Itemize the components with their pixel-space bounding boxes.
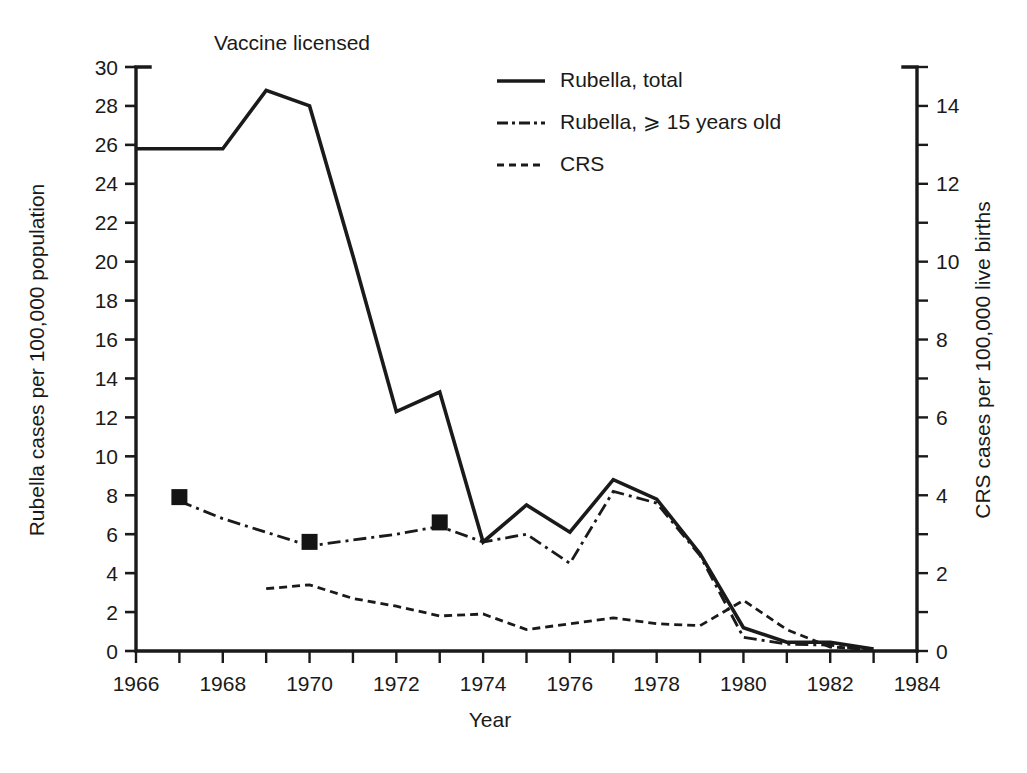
right-spine (903, 67, 917, 651)
data-point-markers-group (171, 489, 447, 550)
x-axis-tick-label: 1970 (286, 672, 333, 695)
y-axis-right-tick-label: 4 (936, 484, 948, 507)
y-axis-right-tick-label: 2 (936, 562, 948, 585)
y-axis-left-tick-label: 24 (95, 172, 119, 195)
x-axis-tick-label: 1984 (894, 672, 941, 695)
rubella-crs-incidence-chart: 0246810121416182022242628300246810121419… (0, 0, 1027, 773)
y-axis-left-tick-label: 2 (106, 601, 118, 624)
x-axis-tick-label: 1982 (807, 672, 854, 695)
x-axis-tick-label: 1972 (373, 672, 420, 695)
y-axis-left-tick-label: 12 (95, 406, 118, 429)
y-axis-left-tick-label: 26 (95, 133, 118, 156)
x-axis-tick-label: 1978 (633, 672, 680, 695)
y-axis-left-tick-label: 18 (95, 289, 118, 312)
legend-item-crs: CRS (497, 152, 604, 175)
y-axis-left-tick-label: 6 (106, 523, 118, 546)
y-axis-left-title: Rubella cases per 100,000 population (25, 184, 48, 537)
y-axis-left-tick-label: 28 (95, 94, 118, 117)
vaccine-licensed-annotation: Vaccine licensed (214, 31, 370, 54)
y-axis-left-tick-label: 0 (106, 640, 118, 663)
tick-labels-group: 0246810121416182022242628300246810121419… (95, 56, 960, 696)
axes-group (125, 67, 928, 663)
x-axis-tick-label: 1966 (113, 672, 160, 695)
y-axis-right-tick-label: 12 (936, 172, 959, 195)
y-axis-right-tick-label: 0 (936, 640, 948, 663)
series-line-rubella-15-years-old (179, 491, 873, 651)
y-axis-left-tick-label: 14 (95, 367, 119, 390)
legend: Rubella, totalRubella, ⩾ 15 years oldCRS (497, 68, 781, 175)
y-axis-left-tick-label: 16 (95, 328, 118, 351)
x-axis-tick-label: 1974 (460, 672, 507, 695)
legend-label: Rubella, ⩾ 15 years old (560, 110, 781, 133)
legend-label: CRS (560, 152, 604, 175)
y-axis-right-tick-label: 8 (936, 328, 948, 351)
x-axis-tick-label: 1976 (547, 672, 594, 695)
chart-canvas: 0246810121416182022242628300246810121419… (0, 0, 1027, 773)
x-axis-title: Year (469, 708, 511, 731)
y-axis-left-tick-label: 30 (95, 56, 118, 79)
y-axis-left-tick-label: 20 (95, 250, 118, 273)
y-axis-left-tick-label: 8 (106, 484, 118, 507)
data-point-marker-square (171, 489, 187, 505)
series-line-rubella-total (136, 90, 874, 649)
y-axis-left-tick-label: 10 (95, 445, 118, 468)
y-axis-right-tick-label: 6 (936, 406, 948, 429)
y-axis-left-tick-label: 4 (106, 562, 118, 585)
data-point-marker-square (302, 534, 318, 550)
y-axis-right-tick-label: 14 (936, 94, 960, 117)
legend-label: Rubella, total (560, 68, 683, 91)
data-series-group (136, 90, 874, 651)
y-axis-right-tick-label: 10 (936, 250, 959, 273)
data-point-marker-square (432, 514, 448, 530)
legend-item-rubella-15-years-old: Rubella, ⩾ 15 years old (497, 110, 781, 133)
legend-item-rubella-total: Rubella, total (497, 68, 683, 91)
y-axis-left-tick-label: 22 (95, 211, 118, 234)
left-and-bottom-spine (136, 67, 917, 651)
x-axis-tick-label: 1968 (199, 672, 246, 695)
x-axis-tick-label: 1980 (720, 672, 767, 695)
y-axis-right-title: CRS cases per 100,000 live births (971, 201, 994, 519)
